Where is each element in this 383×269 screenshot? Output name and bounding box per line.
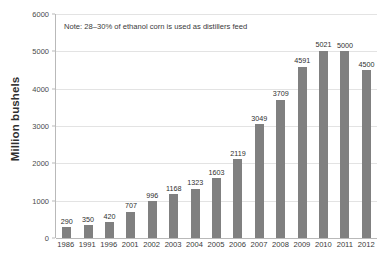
- bar-value-label: 1603: [209, 169, 225, 176]
- bar-value-label: 5021: [316, 41, 332, 48]
- x-axis-tick-2005: 2005: [205, 240, 226, 249]
- bar-value-label: 350: [82, 216, 94, 223]
- bar-value-label: 5000: [337, 42, 353, 49]
- bar[interactable]: [212, 178, 221, 238]
- bar[interactable]: [191, 189, 200, 238]
- bar[interactable]: [105, 222, 114, 238]
- x-axis-tick-2003: 2003: [162, 240, 183, 249]
- bar[interactable]: [169, 194, 178, 238]
- bar-value-label: 996: [146, 192, 158, 199]
- x-axis-tick-2006: 2006: [227, 240, 248, 249]
- bar-value-label: 4500: [358, 61, 374, 68]
- x-axis-tick-2010: 2010: [313, 240, 334, 249]
- bar-value-label: 3709: [273, 90, 289, 97]
- bar-value-label: 2119: [230, 150, 245, 157]
- bar[interactable]: [84, 225, 93, 238]
- bar-group-2001[interactable]: 707: [120, 14, 141, 238]
- plot-area: Note: 28–30% of ethanol corn is used as …: [55, 14, 377, 238]
- x-axis-tick-2001: 2001: [119, 240, 140, 249]
- bar-group-1991[interactable]: 350: [77, 14, 98, 238]
- x-axis-tick-labels: 1986199119962001200220032004200520062007…: [55, 240, 377, 249]
- bar[interactable]: [255, 124, 264, 238]
- x-axis-tick-2011: 2011: [334, 240, 355, 249]
- bar[interactable]: [340, 51, 349, 238]
- y-axis-tick-2000: 2000: [32, 159, 49, 168]
- bar-value-label: 1323: [187, 179, 203, 186]
- bar-group-2005[interactable]: 1603: [206, 14, 227, 238]
- bar-value-label: 420: [104, 213, 116, 220]
- bar[interactable]: [148, 201, 157, 238]
- bars-layer: 2903504207079961168132316032119304937094…: [56, 14, 377, 238]
- y-axis-tick-0: 0: [45, 234, 49, 243]
- x-axis-tick-2007: 2007: [248, 240, 269, 249]
- bar[interactable]: [233, 159, 242, 238]
- bar-value-label: 707: [125, 202, 137, 209]
- x-axis-tick-1991: 1991: [76, 240, 97, 249]
- bar-value-label: 4591: [294, 57, 310, 64]
- y-axis-tick-4000: 4000: [32, 84, 49, 93]
- y-axis-title: Million bushels: [2, 0, 28, 238]
- bar-group-2012[interactable]: 4500: [356, 14, 377, 238]
- y-axis-title-label: Million bushels: [9, 77, 21, 162]
- x-axis-tick-2004: 2004: [184, 240, 205, 249]
- x-axis-tick-2002: 2002: [141, 240, 162, 249]
- x-axis-baseline: [56, 238, 377, 239]
- bar-group-1996[interactable]: 420: [99, 14, 120, 238]
- x-axis-tick-2009: 2009: [291, 240, 312, 249]
- bar[interactable]: [62, 227, 71, 238]
- bar-value-label: 290: [61, 218, 73, 225]
- bar-group-2004[interactable]: 1323: [184, 14, 205, 238]
- x-axis-tick-2012: 2012: [356, 240, 377, 249]
- bar-group-2006[interactable]: 2119: [227, 14, 248, 238]
- bar[interactable]: [319, 51, 328, 238]
- bar[interactable]: [126, 212, 135, 238]
- bar-chart: Million bushels 010002000300040005000600…: [0, 0, 383, 269]
- x-axis-tick-1996: 1996: [98, 240, 119, 249]
- bar-group-2010[interactable]: 5021: [313, 14, 334, 238]
- bar-group-2008[interactable]: 3709: [270, 14, 291, 238]
- bar[interactable]: [276, 100, 285, 238]
- bar-group-2003[interactable]: 1168: [163, 14, 184, 238]
- x-axis-tick-1986: 1986: [55, 240, 76, 249]
- bar-group-2009[interactable]: 4591: [291, 14, 312, 238]
- bar-group-2002[interactable]: 996: [142, 14, 163, 238]
- y-axis-tick-3000: 3000: [32, 122, 49, 131]
- y-axis-tick-labels: 0100020003000400050006000: [26, 14, 52, 238]
- bar[interactable]: [362, 70, 371, 238]
- y-axis-tick-1000: 1000: [32, 196, 49, 205]
- bar-value-label: 3049: [251, 115, 267, 122]
- x-axis-tick-2008: 2008: [270, 240, 291, 249]
- bar-group-2011[interactable]: 5000: [334, 14, 355, 238]
- bar-group-2007[interactable]: 3049: [249, 14, 270, 238]
- y-axis-tick-5000: 5000: [32, 47, 49, 56]
- bar-group-1986[interactable]: 290: [56, 14, 77, 238]
- bar[interactable]: [298, 67, 307, 238]
- y-axis-tick-6000: 6000: [32, 10, 49, 19]
- bar-value-label: 1168: [166, 185, 181, 192]
